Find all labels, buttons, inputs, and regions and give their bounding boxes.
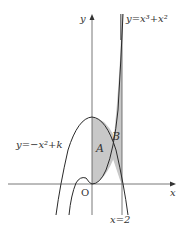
y-axis-arrow-icon — [90, 14, 95, 20]
origin-label: O — [81, 187, 89, 198]
region-b-label: B — [111, 130, 120, 143]
cubic-curve — [69, 14, 123, 215]
x-axis-label: x — [170, 187, 176, 198]
function-graph-diagram: y x O y=x³+x² y=−x²+k x=2 A B — [0, 0, 189, 241]
cubic-label: y=x³+x² — [125, 13, 168, 24]
x-axis-arrow-icon — [170, 182, 176, 187]
y-axis-label: y — [79, 13, 86, 24]
parabola-label: y=−x²+k — [15, 139, 63, 150]
vertical-line-label: x=2 — [110, 214, 130, 225]
region-a-label: A — [95, 142, 104, 155]
